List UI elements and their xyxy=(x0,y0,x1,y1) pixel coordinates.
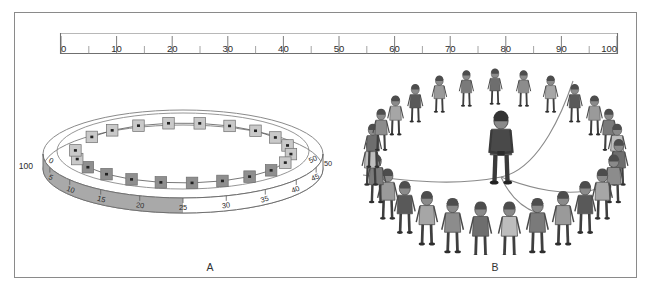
person-foot-right xyxy=(383,149,388,151)
marker-arrow-dot xyxy=(167,122,170,125)
marker-arrow-dot xyxy=(74,149,77,152)
adult-leg-right xyxy=(507,155,508,181)
adult-leg-left xyxy=(494,155,495,181)
person-torso xyxy=(461,80,472,93)
marker-arrow-dot xyxy=(105,173,108,176)
ruler-label-30: 30 xyxy=(223,43,234,54)
person-leg-right xyxy=(618,185,619,202)
person-leg-right xyxy=(376,151,377,166)
person-hair xyxy=(580,181,591,189)
person-leg-right xyxy=(606,200,607,217)
person-foot-right xyxy=(429,242,435,245)
person-leg-left xyxy=(533,232,534,251)
person-hair xyxy=(463,70,471,75)
person-foot-left xyxy=(603,149,608,151)
person-leg-left xyxy=(558,225,559,243)
person-foot-left xyxy=(410,121,414,123)
panel-b-caption: B xyxy=(475,261,515,273)
person-hair xyxy=(604,109,613,115)
adult-foot-left xyxy=(490,180,499,184)
ruler-label-40: 40 xyxy=(278,43,289,54)
person-figure-16 xyxy=(416,191,437,245)
person-leg-left xyxy=(372,185,373,202)
person-leg-left xyxy=(383,200,384,217)
person-foot-left xyxy=(444,250,450,253)
person-foot-left xyxy=(419,242,425,245)
person-foot-left xyxy=(569,121,573,123)
person-figure-11 xyxy=(553,191,574,245)
person-foot-right xyxy=(455,250,461,253)
person-foot-right xyxy=(407,231,413,234)
person-hair xyxy=(503,202,515,210)
person-leg-right xyxy=(589,214,590,232)
person-foot-left xyxy=(364,183,369,186)
person-foot-left xyxy=(397,231,403,234)
person-torso xyxy=(490,78,500,91)
person-foot-left xyxy=(529,250,535,253)
person-leg-right xyxy=(380,185,381,202)
person-hair xyxy=(399,181,410,189)
person-leg-left xyxy=(422,225,423,243)
person-foot-right xyxy=(576,121,580,123)
adult-foot-right xyxy=(503,180,512,184)
ruler-label-20: 20 xyxy=(167,43,178,54)
person-figure-17 xyxy=(394,181,415,234)
marker-arrow-dot xyxy=(130,178,133,181)
marker-arrow-dot xyxy=(270,169,273,172)
person-foot-right xyxy=(565,242,571,245)
person-foot-right xyxy=(616,201,622,204)
person-figure-24 xyxy=(408,84,423,122)
children-circle-illustration xyxy=(351,65,639,255)
person-foot-left xyxy=(472,254,478,255)
person-foot-right xyxy=(552,111,556,113)
person-torso xyxy=(569,94,580,108)
ring-scale-label-50: 50 xyxy=(307,153,318,165)
person-hair xyxy=(520,70,528,75)
person-leg-left xyxy=(448,232,449,251)
ruler-label-60: 60 xyxy=(389,43,400,54)
people-group xyxy=(362,69,628,255)
person-figure-13 xyxy=(498,202,520,255)
person-foot-right xyxy=(587,231,593,234)
person-foot-right xyxy=(397,133,402,135)
marker-arrow-dot xyxy=(111,129,114,132)
person-foot-left xyxy=(369,201,375,204)
person-torso xyxy=(390,106,402,120)
ruler-label-100: 100 xyxy=(601,43,617,54)
person-hair xyxy=(377,109,386,115)
marker-arrow-dot xyxy=(86,166,89,169)
marker-arrow-dot xyxy=(137,124,140,127)
person-leg-right xyxy=(514,236,515,255)
ruler-label-90: 90 xyxy=(556,43,567,54)
adult-jacket xyxy=(490,129,511,155)
person-foot-right xyxy=(374,166,379,168)
person-foot-right xyxy=(468,105,472,107)
person-leg-right xyxy=(392,200,393,217)
person-hair xyxy=(597,169,608,176)
person-hair xyxy=(435,76,443,81)
person-foot-left xyxy=(380,217,386,220)
person-torso xyxy=(545,86,556,99)
person-figure-0 xyxy=(488,69,502,105)
person-torso xyxy=(445,213,461,232)
person-foot-left xyxy=(490,103,494,105)
person-leg-right xyxy=(457,232,458,251)
person-leg-left xyxy=(400,214,401,232)
person-foot-right xyxy=(378,201,384,204)
person-leg-left xyxy=(581,214,582,232)
figure-frame: 0102030405060708090100 xyxy=(14,12,637,278)
panel-b-illustration xyxy=(351,65,639,255)
marker-arrow-dot xyxy=(286,144,289,147)
person-figure-12 xyxy=(527,198,549,253)
person-foot-right xyxy=(596,133,601,135)
person-hair xyxy=(532,198,544,206)
person-foot-left xyxy=(555,242,561,245)
person-foot-left xyxy=(595,217,601,220)
marker-square-group xyxy=(70,118,297,189)
person-leg-left xyxy=(476,236,477,255)
ruler-label-50: 50 xyxy=(334,43,345,54)
ring-scale-label-20: 20 xyxy=(135,200,144,210)
ruler-label-10: 10 xyxy=(111,43,122,54)
person-leg-left xyxy=(367,168,368,184)
person-figure-15 xyxy=(442,198,464,253)
